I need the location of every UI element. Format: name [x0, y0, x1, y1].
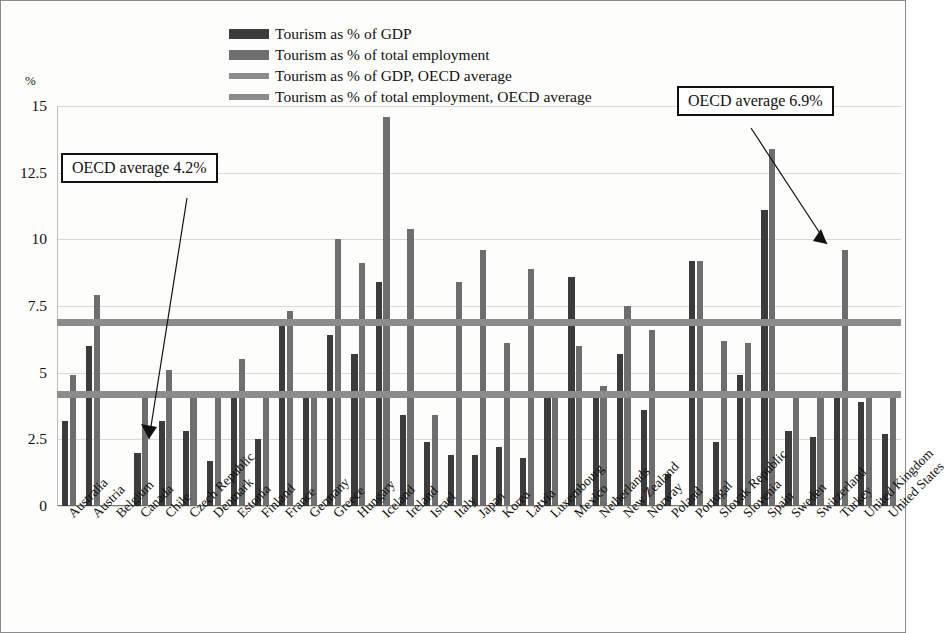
callout-gdp-average: OECD average 4.2% [61, 153, 218, 183]
callout-employment-average: OECD average 6.9% [677, 86, 834, 116]
